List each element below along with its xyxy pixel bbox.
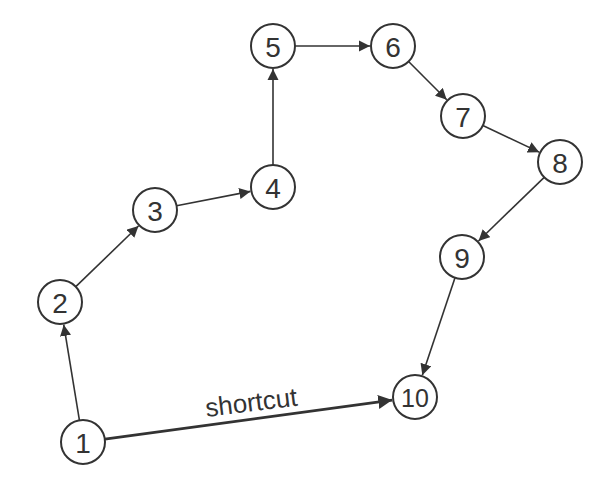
svg-text:3: 3 xyxy=(147,196,163,227)
edge-1-to-2 xyxy=(64,325,80,421)
svg-text:8: 8 xyxy=(552,148,568,179)
svg-text:2: 2 xyxy=(52,288,68,319)
svg-text:1: 1 xyxy=(75,428,91,459)
graph-svg: shortcut 12345678910 xyxy=(0,0,605,487)
edge-7-to-8 xyxy=(483,125,539,152)
node-3: 3 xyxy=(133,188,177,232)
node-6: 6 xyxy=(371,24,415,68)
edge-6-to-7 xyxy=(409,62,447,100)
node-1: 1 xyxy=(61,420,105,464)
graph-diagram: shortcut 12345678910 xyxy=(0,0,605,487)
svg-text:6: 6 xyxy=(385,32,401,63)
node-9: 9 xyxy=(440,235,484,279)
edge-3-to-4 xyxy=(177,191,251,205)
node-7: 7 xyxy=(441,94,485,138)
shortcut-label: shortcut xyxy=(203,382,299,423)
edge-2-to-3 xyxy=(76,226,139,287)
svg-text:9: 9 xyxy=(454,243,470,274)
edge-8-to-9 xyxy=(479,177,545,241)
svg-text:7: 7 xyxy=(455,102,471,133)
node-4: 4 xyxy=(251,165,295,209)
node-2: 2 xyxy=(38,280,82,324)
svg-text:10: 10 xyxy=(401,384,429,412)
svg-text:5: 5 xyxy=(265,32,281,63)
node-10: 10 xyxy=(393,375,437,419)
node-8: 8 xyxy=(538,140,582,184)
svg-text:4: 4 xyxy=(265,173,281,204)
node-5: 5 xyxy=(251,24,295,68)
edge-9-to-10 xyxy=(422,278,455,375)
